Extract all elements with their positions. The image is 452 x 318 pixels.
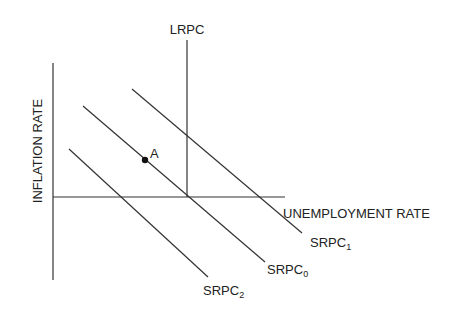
point-a-marker: [142, 157, 148, 163]
lrpc-label: LRPC: [170, 22, 205, 37]
y-axis-label: INFLATION RATE: [30, 99, 45, 204]
srpc1-line: [132, 89, 302, 233]
srpc1-label: SRPC1: [310, 235, 351, 252]
srpc2-label: SRPC2: [203, 283, 244, 300]
srpc0-line: [83, 106, 265, 262]
x-axis-label: UNEMPLOYMENT RATE: [283, 206, 430, 221]
phillips-curve-diagram: A LRPC INFLATION RATE UNEMPLOYMENT RATE …: [0, 0, 452, 318]
point-a-label: A: [150, 146, 159, 161]
srpc0-label: SRPC0: [267, 262, 308, 279]
